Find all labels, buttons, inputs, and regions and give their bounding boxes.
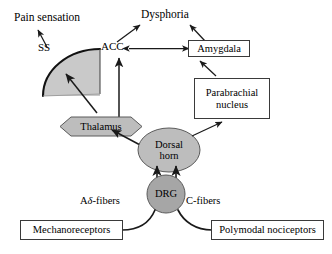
- polymodal-nociceptors-box: Polymodal nociceptors: [211, 220, 324, 240]
- dysphoria-label: Dysphoria: [141, 8, 189, 20]
- arrow-dorsalhorn-to-parabrachial: [192, 122, 222, 136]
- arrow-amygdala-to-dysphoria: [190, 25, 205, 41]
- drg-shape: [147, 175, 185, 213]
- arrow-parabrachial-to-amygdala: [200, 61, 216, 76]
- parabrachial-line2: nucleus: [216, 99, 248, 111]
- diagram-vector-layer: [0, 0, 332, 254]
- cfiber-curve: [178, 210, 212, 230]
- adelta-suffix: -fibers: [92, 195, 119, 206]
- adelta-fiber-curve: [122, 210, 155, 230]
- parabrachial-line1: Parabrachial: [206, 87, 258, 99]
- pain-pathway-diagram: Pain sensation Dysphoria SS ACC Thalamus…: [0, 0, 332, 254]
- ss-cortex-label: SS: [38, 42, 50, 54]
- cfibers-label: C-fibers: [186, 195, 220, 206]
- thalamus-shape: [60, 117, 142, 136]
- mechanoreceptors-box: Mechanoreceptors: [20, 220, 123, 240]
- adelta-fibers-label: Aδ-fibers: [80, 195, 120, 206]
- pain-sensation-label: Pain sensation: [14, 11, 80, 23]
- parabrachial-nucleus-box: Parabrachial nucleus: [194, 78, 270, 119]
- cortex-wedge: [43, 49, 100, 96]
- dorsal-horn-shape: [138, 128, 200, 172]
- acc-label: ACC: [101, 41, 124, 53]
- amygdala-box: Amygdala: [188, 40, 250, 57]
- adelta-prefix: A: [80, 195, 88, 206]
